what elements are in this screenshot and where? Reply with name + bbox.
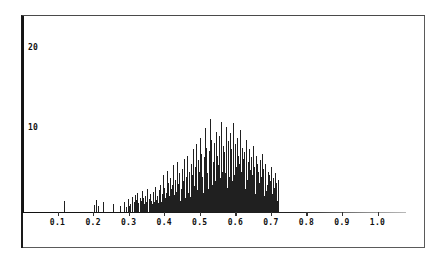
histogram-bar [120,206,121,212]
x-axis-tick [58,212,59,216]
x-axis-tick-label: 1.0 [370,218,385,227]
histogram-bar [103,202,104,212]
x-axis-tick [200,212,201,216]
histogram-bar [126,207,127,212]
x-axis-tick [306,212,307,216]
x-axis-tick-label: 0.4 [157,218,172,227]
histogram-bar [64,201,65,212]
x-axis-tick [271,212,272,216]
histogram-bar [124,202,125,212]
histogram-bars [0,0,443,212]
y-axis-tick-label: 10 [28,123,38,132]
x-axis-tick [342,212,343,216]
x-axis-tick [129,212,130,216]
x-axis-tick-label: 0.7 [263,218,278,227]
x-axis-tick-label: 0.8 [299,218,314,227]
histogram-bar [94,205,95,212]
chart-screenshot: 2010 0.10.20.30.40.50.60.70.80.91.0 [0,0,443,264]
x-axis-tick-label: 0.6 [228,218,243,227]
x-axis-tick-label: 0.1 [50,218,65,227]
x-axis-tick-label: 0.2 [85,218,100,227]
x-axis-tick-label: 0.9 [334,218,349,227]
y-axis-tick-label: 20 [28,43,38,52]
x-axis-tick [93,212,94,216]
histogram-bar [113,204,114,212]
histogram-bar [278,196,279,212]
x-axis-tick [235,212,236,216]
x-axis-tick [378,212,379,216]
histogram-bar [98,206,99,212]
x-axis-tick [164,212,165,216]
histogram-bar [96,200,97,212]
x-axis-tick-label: 0.3 [121,218,136,227]
x-axis-tick-label: 0.5 [192,218,207,227]
